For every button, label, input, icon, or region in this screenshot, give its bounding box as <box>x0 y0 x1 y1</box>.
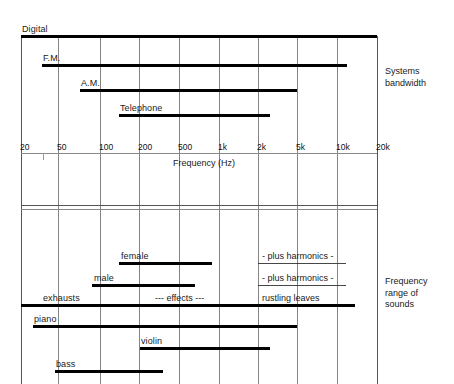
axis-tick-label-20: 20 <box>20 142 29 152</box>
side-label-line: Systems <box>385 66 426 78</box>
annotation-male-harmonics: - plus harmonics - <box>262 273 334 284</box>
side-label-line: sounds <box>385 299 428 311</box>
range-label-telephone: Telephone <box>120 103 162 114</box>
axis-tick-label-500: 500 <box>178 142 192 152</box>
range-label-am: A.M. <box>81 78 100 89</box>
annotation-effects: --- effects --- <box>155 293 204 304</box>
axis-title: Frequency (Hz) <box>173 158 235 168</box>
range-bars <box>21 37 377 372</box>
range-label-male: male <box>94 273 114 284</box>
axis-tick-label-100: 100 <box>99 142 113 152</box>
range-label-female: female <box>121 251 149 262</box>
frequency-range-diagram <box>0 0 454 384</box>
axis-tick-label-10k: 10k <box>336 142 350 152</box>
axis-tick-label-1k: 1k <box>218 142 227 152</box>
range-label-fm: F.M. <box>43 53 60 64</box>
range-label-bass: bass <box>56 359 75 370</box>
side-label-systems-bandwidth: Systemsbandwidth <box>385 66 426 89</box>
annotation-rustling-leaves: rustling leaves <box>262 293 320 304</box>
side-label-frequency-range-of-sounds: Frequencyrange ofsounds <box>385 276 428 311</box>
axis-tick-label-200: 200 <box>138 142 152 152</box>
range-label-digital: Digital <box>22 24 48 35</box>
axis-tick-label-50: 50 <box>57 142 66 152</box>
axis-tick-label-2k: 2k <box>257 142 266 152</box>
gridlines <box>21 36 378 384</box>
range-label-piano: piano <box>34 314 57 325</box>
side-label-line: Frequency <box>385 276 428 288</box>
side-label-line: range of <box>385 288 428 300</box>
range-label-violin: violin <box>141 336 162 347</box>
axis-tick-label-5k: 5k <box>296 142 305 152</box>
side-label-line: bandwidth <box>385 78 426 90</box>
range-label-exhausts: exhausts <box>43 293 80 304</box>
annotation-female-harmonics: - plus harmonics - <box>262 251 334 262</box>
axis-tick-label-20k: 20k <box>376 142 390 152</box>
